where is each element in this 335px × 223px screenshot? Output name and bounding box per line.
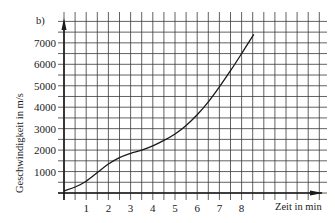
x-axis-label: Zeit in min xyxy=(275,201,322,212)
x-tick-label: 4 xyxy=(150,202,156,214)
y-axis-arrow-icon xyxy=(62,18,67,30)
velocity-time-chart: 12345678 1000200030004000500060007000 b)… xyxy=(0,0,335,223)
panel-label: b) xyxy=(36,15,45,27)
x-tick-label: 5 xyxy=(172,202,178,214)
x-tick-label: 6 xyxy=(194,202,200,214)
y-tick-label: 1000 xyxy=(34,166,57,178)
x-tick-label: 8 xyxy=(239,202,245,214)
y-tick-labels: 1000200030004000500060007000 xyxy=(34,37,57,178)
x-tick-label: 3 xyxy=(128,202,134,214)
x-axis-arrow-icon xyxy=(310,191,323,196)
velocity-curve xyxy=(64,34,254,191)
x-tick-label: 2 xyxy=(106,202,112,214)
y-tick-label: 3000 xyxy=(34,123,57,135)
x-tick-labels: 12345678 xyxy=(83,202,244,214)
y-tick-label: 5000 xyxy=(34,80,57,92)
y-tick-label: 4000 xyxy=(34,101,57,113)
y-axis-label: Geschwindigkeit in m/s xyxy=(14,93,25,193)
x-tick-label: 7 xyxy=(217,202,223,214)
y-tick-label: 2000 xyxy=(34,144,57,156)
y-tick-label: 7000 xyxy=(34,37,57,49)
x-tick-label: 1 xyxy=(83,202,89,214)
y-tick-label: 6000 xyxy=(34,58,57,70)
